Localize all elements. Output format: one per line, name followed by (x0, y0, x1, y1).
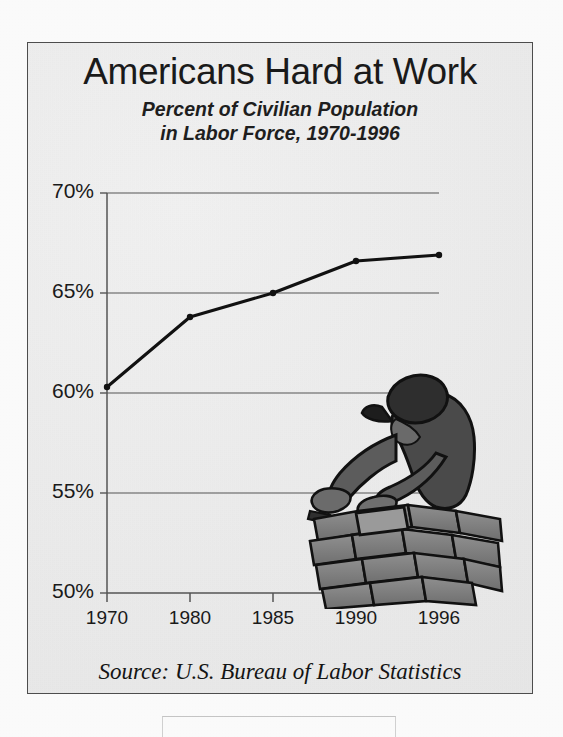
chart-figure-frame: Americans Hard at Work Percent of Civili… (27, 42, 533, 694)
x-axis-tick-label: 1970 (72, 607, 142, 629)
data-point-marker (104, 384, 110, 390)
bricklayer-worker-illustration (296, 361, 518, 609)
x-axis-tick-label: 1985 (238, 607, 308, 629)
data-point-marker (353, 258, 359, 264)
axes-group (100, 193, 107, 593)
x-axis-tick-label: 1996 (404, 607, 474, 629)
data-point-marker (187, 314, 193, 320)
x-axis-tick-label: 1990 (321, 607, 391, 629)
y-axis-tick-label: 50% (27, 579, 94, 603)
y-axis-tick-label: 60% (27, 379, 94, 403)
x-axis-tick-label: 1980 (155, 607, 225, 629)
bleed-through-rule (162, 716, 396, 737)
y-axis-tick-label: 55% (27, 479, 94, 503)
y-axis-tick-label: 70% (27, 179, 94, 203)
data-point-marker (270, 290, 276, 296)
scanned-page-background: Americans Hard at Work Percent of Civili… (0, 0, 563, 737)
data-point-marker (436, 252, 442, 258)
y-axis-tick-label: 65% (27, 279, 94, 303)
source-note: Source: U.S. Bureau of Labor Statistics (28, 659, 532, 685)
